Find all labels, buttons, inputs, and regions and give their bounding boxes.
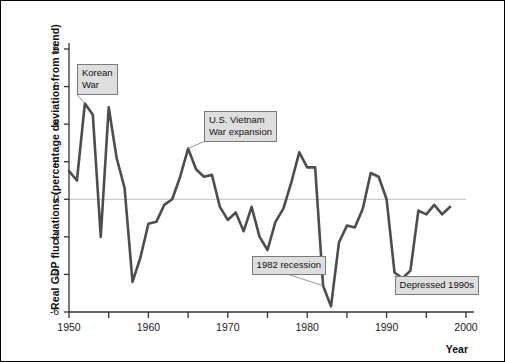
y-tick-label: 4: [37, 117, 59, 129]
chart-annotation: Korean War: [77, 64, 118, 95]
x-axis-label: Year: [446, 343, 468, 355]
y-tick-label: 8: [37, 42, 59, 54]
x-tick-label: 2000: [446, 321, 486, 333]
chart-plot-area: [1, 1, 505, 362]
x-tick-label: 1950: [49, 321, 89, 333]
chart-figure: Real GDP fluctuations (percentage deviat…: [0, 0, 505, 362]
chart-annotation: U.S. Vietnam War expansion: [204, 111, 277, 142]
chart-annotation: 1982 recession: [252, 256, 326, 275]
y-tick-label: 6: [37, 80, 59, 92]
x-tick-label: 1970: [208, 321, 248, 333]
y-tick-label: 2: [37, 155, 59, 167]
y-tick-label: -2: [37, 230, 59, 242]
y-tick-label: -4: [37, 267, 59, 279]
chart-annotation: Depressed 1990s: [395, 276, 479, 295]
y-tick-label: 0: [37, 192, 59, 204]
x-tick-label: 1990: [367, 321, 407, 333]
x-tick-label: 1980: [287, 321, 327, 333]
x-tick-label: 1960: [128, 321, 168, 333]
y-tick-label: -6: [37, 305, 59, 317]
